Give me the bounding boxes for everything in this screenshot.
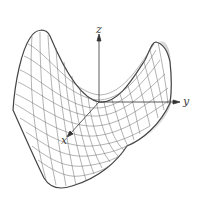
y-axis-label: y bbox=[183, 96, 189, 107]
z-axis-label: z bbox=[96, 24, 102, 35]
x-axis-label: x bbox=[61, 135, 67, 146]
y-axis-arrowhead bbox=[173, 100, 180, 104]
